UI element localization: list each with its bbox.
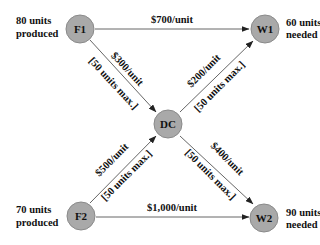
f2-supply-line1: 70 units xyxy=(16,204,51,215)
distribution-network-diagram: $700/unit $1,000/unit $300/unit [50 unit… xyxy=(0,0,320,245)
node-f1-label: F1 xyxy=(74,23,86,35)
node-f2-label: F2 xyxy=(75,210,88,222)
f1-supply-line1: 80 units xyxy=(16,15,51,26)
w1-demand-line2: needed xyxy=(286,29,318,40)
node-w1: W1 xyxy=(251,15,279,43)
node-dc: DC xyxy=(154,110,182,138)
w2-demand-line1: 90 units xyxy=(286,207,320,218)
node-dc-label: DC xyxy=(160,118,176,130)
f1-supply-line2: produced xyxy=(16,28,59,39)
w2-demand-line2: needed xyxy=(286,219,318,230)
node-w2-label: W2 xyxy=(256,212,273,224)
edge-label-f1-dc-capacity: [50 units max.] xyxy=(87,55,141,111)
w1-demand-line1: 60 units xyxy=(286,17,320,28)
f2-supply-line2: produced xyxy=(16,217,59,228)
node-f1: F1 xyxy=(66,15,94,43)
node-w1-label: W1 xyxy=(257,23,274,35)
node-f2: F2 xyxy=(67,202,95,230)
node-w2: W2 xyxy=(250,204,278,232)
diagram-canvas: $700/unit $1,000/unit $300/unit [50 unit… xyxy=(0,0,320,245)
edge-label-f2-w2-cost: $1,000/unit xyxy=(147,202,197,213)
edge-label-f1-w1-cost: $700/unit xyxy=(151,14,194,25)
